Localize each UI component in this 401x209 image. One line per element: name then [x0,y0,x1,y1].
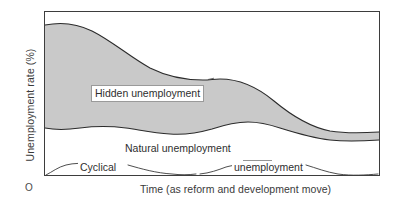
cyclical-unemployment-label-part1: Cyclical [78,161,118,174]
plot-area [0,0,401,209]
cyclical-unemployment-label-part2: unemployment [232,161,305,174]
x-axis-title: Time (as reform and development move) [140,183,390,196]
unemployment-area-chart: Unemployment rate (%) Hidden unemploymen… [0,0,401,209]
hidden-unemployment-label: Hidden unemployment [91,85,204,102]
natural-unemployment-label: Natural unemployment [125,142,231,155]
origin-label: O [25,182,33,194]
